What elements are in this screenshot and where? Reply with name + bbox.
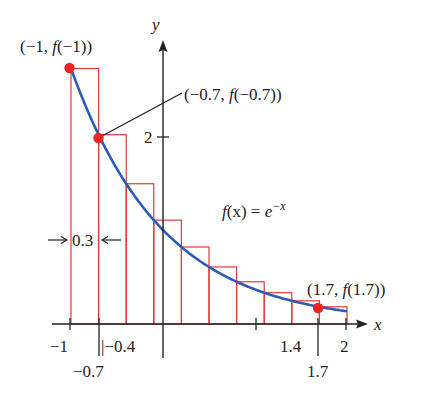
- tick-label-2: 2: [340, 337, 349, 356]
- riemann-sum-diagram: y x (−1, f(−1)) (−0.7, f(−0.7)) (1.7, f(…: [0, 0, 426, 409]
- tick-label-1-7: 1.7: [307, 362, 329, 381]
- riemann-rectangles: [71, 69, 347, 324]
- function-label: f(x) = e−x: [222, 199, 286, 221]
- point-1-7-label: (1.7, f(1.7)): [307, 280, 385, 299]
- point-neg07: [93, 133, 103, 143]
- point-neg1-label: (−1, f(−1)): [20, 37, 92, 56]
- width-label: 0.3: [72, 231, 93, 250]
- y-tick-label-2: 2: [144, 128, 153, 147]
- leader-line: [102, 93, 182, 136]
- tick-label-1-4: 1.4: [280, 337, 302, 356]
- point-1-7: [313, 303, 323, 313]
- tick-label-neg1: −1: [50, 337, 68, 356]
- point-neg1: [64, 63, 74, 73]
- x-axis-label: x: [373, 315, 382, 334]
- point-neg07-label: (−0.7, f(−0.7)): [184, 85, 282, 104]
- tick-label-neg07: −0.7: [73, 362, 104, 381]
- y-axis-label: y: [150, 15, 160, 34]
- tick-label-neg04: |−0.4: [101, 337, 136, 356]
